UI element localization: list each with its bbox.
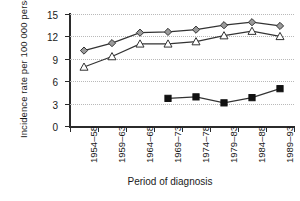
data-point-marker — [248, 19, 255, 26]
data-point-marker — [193, 94, 199, 100]
data-point-marker — [248, 27, 256, 34]
data-point-marker — [108, 40, 115, 47]
y-axis-title: Incidence rate per 100 000 person-years — [17, 2, 30, 138]
x-tick-label: 1979–83 — [228, 126, 240, 172]
series-line — [84, 22, 280, 50]
data-point-marker — [80, 47, 87, 54]
data-point-marker — [276, 22, 283, 29]
chart-figure: Incidence rate per 100 000 person-years … — [0, 0, 300, 201]
x-axis-title: Period of diagnosis — [0, 176, 300, 187]
x-tick-label: 1959–63 — [116, 126, 128, 172]
x-axis-tick-labels: 1954–581959–631964–681969–731974–781979–… — [70, 126, 294, 172]
y-tick-label: 3 — [52, 99, 58, 110]
x-tick-label: 1954–58 — [88, 126, 100, 172]
data-point-marker — [136, 29, 143, 36]
data-series-layer — [70, 14, 294, 126]
data-point-marker — [220, 22, 227, 29]
x-tick-label: 1974–78 — [200, 126, 212, 172]
y-tick-label: 6 — [52, 77, 58, 88]
series-line — [84, 31, 280, 67]
y-tick-label: 9 — [52, 54, 58, 65]
x-tick-label: 1984–88 — [256, 126, 268, 172]
x-tick-label: 1964–68 — [144, 126, 156, 172]
data-point-marker — [164, 28, 171, 35]
y-tick-label: 12 — [47, 32, 58, 43]
x-tick-label: 1989–93 — [284, 126, 296, 172]
y-tick-label: 15 — [47, 10, 58, 21]
data-point-marker — [277, 86, 283, 92]
y-tick-label: 0 — [52, 122, 58, 133]
data-point-marker — [80, 63, 88, 70]
data-point-marker — [165, 95, 171, 101]
plot-area: 03691215 — [70, 14, 294, 126]
x-axis-title-text: Period of diagnosis — [87, 176, 212, 187]
x-tick-label: 1969–73 — [172, 126, 184, 172]
y-axis-title-container: Incidence rate per 100 000 person-years — [0, 0, 46, 140]
data-point-marker — [108, 53, 116, 60]
data-point-marker — [221, 100, 227, 106]
data-point-marker — [192, 26, 199, 33]
data-point-marker — [249, 95, 255, 101]
